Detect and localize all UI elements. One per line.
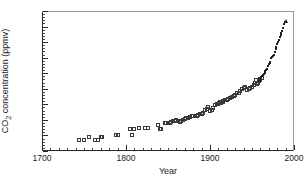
x-tick-minor <box>277 148 278 150</box>
x-axis-line <box>42 150 294 151</box>
data-point <box>269 62 271 64</box>
plot-frame-right <box>293 11 294 151</box>
y-tick-minor <box>43 67 45 68</box>
data-point <box>273 54 275 56</box>
data-point <box>275 48 277 50</box>
y-tick-major <box>43 151 48 152</box>
x-tick-minor <box>50 148 51 150</box>
y-tick-minor <box>43 132 45 133</box>
x-tick-minor <box>244 148 245 150</box>
data-point <box>278 39 280 41</box>
x-tick-minor <box>101 148 102 150</box>
y-tick-minor <box>43 48 45 49</box>
x-tick-minor <box>67 148 68 150</box>
data-point <box>276 43 278 45</box>
y-tick-minor <box>43 142 45 143</box>
x-tick-minor <box>269 148 270 150</box>
y-tick-major <box>43 89 48 90</box>
x-tick-minor <box>59 148 60 150</box>
x-tick-minor <box>202 148 203 150</box>
data-point <box>275 46 277 48</box>
data-point <box>159 127 163 131</box>
x-tick-minor <box>84 148 85 150</box>
y-tick-major <box>43 120 48 121</box>
data-point <box>282 27 284 29</box>
data-point <box>283 23 285 25</box>
y-axis-title: CO2 concentration (ppmv) <box>0 0 11 11</box>
data-point <box>284 19 288 23</box>
y-tick-minor <box>43 51 45 52</box>
x-tick-minor <box>252 148 253 150</box>
y-tick-major <box>43 11 48 12</box>
x-tick-minor <box>185 148 186 150</box>
x-tick-minor <box>151 148 152 150</box>
x-tick-major <box>42 145 43 150</box>
y-tick-minor <box>43 111 45 112</box>
y-tick-minor <box>43 107 45 108</box>
y-tick-minor <box>43 64 45 65</box>
data-point <box>267 65 269 67</box>
x-tick-minor <box>92 148 93 150</box>
data-point <box>269 61 271 63</box>
y-tick-minor <box>43 20 45 21</box>
x-tick-minor <box>286 148 287 150</box>
x-tick-minor <box>118 148 119 150</box>
x-tick-label: 1900 <box>201 154 220 163</box>
y-tick-minor <box>43 145 45 146</box>
data-point <box>264 72 266 74</box>
data-point <box>280 34 282 36</box>
y-tick-minor <box>43 45 45 46</box>
y-tick-minor <box>43 79 45 80</box>
y-tick-major <box>43 27 48 28</box>
x-tick-major <box>294 145 295 150</box>
y-axis-title-base: CO <box>0 120 10 134</box>
y-tick-minor <box>43 17 45 18</box>
y-tick-major <box>43 58 48 59</box>
y-tick-minor <box>43 126 45 127</box>
y-tick-minor <box>43 14 45 15</box>
x-tick-major <box>210 145 211 150</box>
x-tick-label: 1800 <box>117 154 136 163</box>
x-tick-minor <box>160 148 161 150</box>
x-tick-minor <box>260 148 261 150</box>
y-tick-minor <box>43 76 45 77</box>
y-tick-minor <box>43 33 45 34</box>
x-tick-minor <box>168 148 169 150</box>
x-tick-label: 2000 <box>285 154 304 163</box>
y-tick-major <box>43 104 48 105</box>
x-tick-minor <box>76 148 77 150</box>
y-tick-minor <box>43 148 45 149</box>
data-point <box>82 138 86 142</box>
x-tick-minor <box>235 148 236 150</box>
y-tick-minor <box>43 129 45 130</box>
data-point <box>130 133 134 137</box>
x-tick-label: 1700 <box>33 154 52 163</box>
y-tick-minor <box>43 55 45 56</box>
y-tick-minor <box>43 30 45 31</box>
y-tick-minor <box>43 61 45 62</box>
y-tick-minor <box>43 36 45 37</box>
co2-concentration-chart: CO2 concentration (ppmv) 270280290300310… <box>0 0 308 187</box>
y-tick-minor <box>43 123 45 124</box>
data-point <box>116 133 120 137</box>
data-point <box>280 32 282 34</box>
x-tick-minor <box>134 148 135 150</box>
x-tick-minor <box>227 148 228 150</box>
plot-area: 270280290300310320330340350360 170018001… <box>42 11 294 151</box>
data-point <box>279 36 281 38</box>
data-point <box>274 51 276 53</box>
y-tick-minor <box>43 114 45 115</box>
data-point <box>132 127 136 131</box>
y-tick-minor <box>43 117 45 118</box>
data-point <box>146 126 150 130</box>
y-axis-title-subscript: 2 <box>4 116 13 120</box>
y-tick-major <box>43 73 48 74</box>
data-point <box>201 111 205 115</box>
y-tick-minor <box>43 92 45 93</box>
y-axis-title-rest: concentration (ppmv) <box>0 29 10 116</box>
data-point <box>266 68 268 70</box>
x-tick-minor <box>143 148 144 150</box>
data-point <box>77 138 81 142</box>
y-tick-minor <box>43 98 45 99</box>
y-tick-minor <box>43 23 45 24</box>
